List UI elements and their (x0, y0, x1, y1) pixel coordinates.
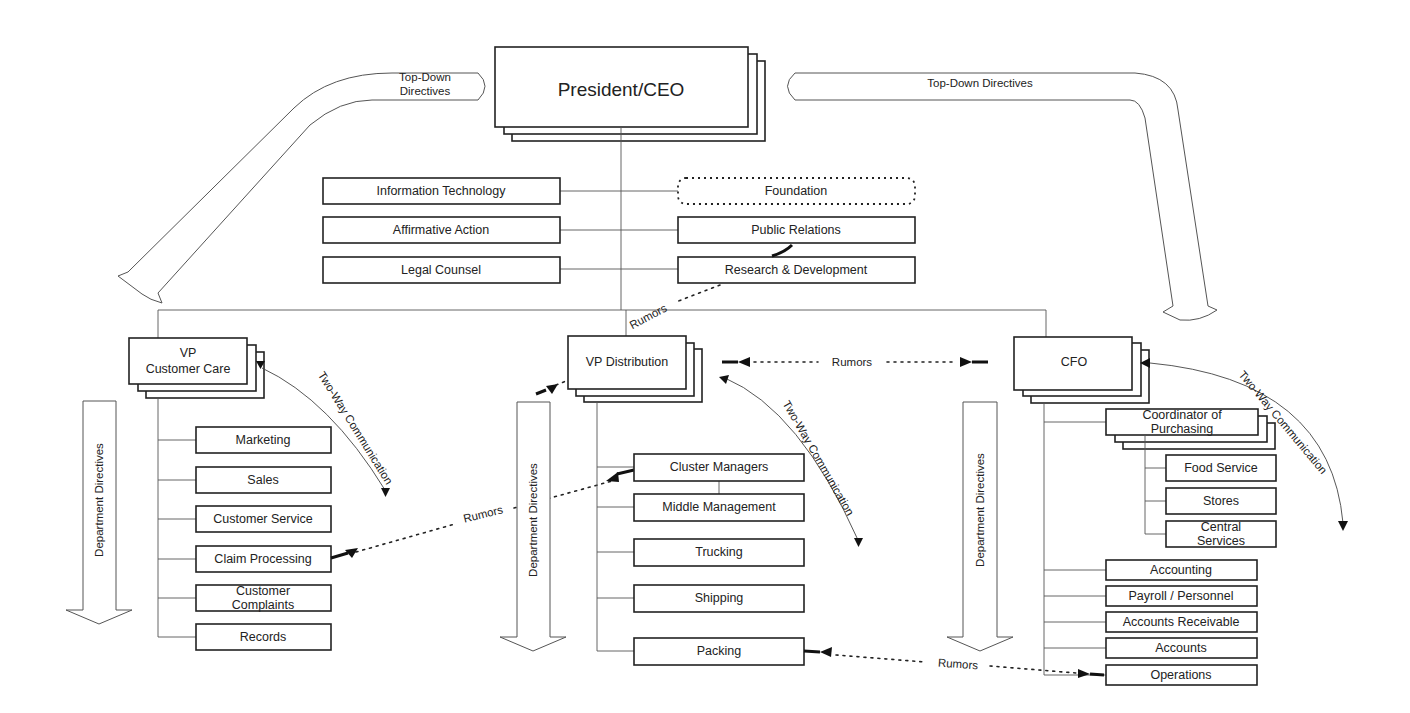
vp-customer-care-box[interactable]: VP Customer Care (129, 338, 264, 398)
dept-label: Payroll / Personnel (1129, 589, 1234, 603)
staff-research-development[interactable]: Research & Development (678, 257, 915, 283)
ceo-box[interactable]: President/CEO (495, 47, 765, 141)
staff-legal-counsel[interactable]: Legal Counsel (323, 257, 560, 283)
top-down-left-line2: Directives (400, 85, 451, 97)
dept-middle-management[interactable]: Middle Management (634, 494, 804, 521)
staff-label: Legal Counsel (401, 263, 481, 277)
rumor-rd-line (676, 285, 720, 302)
rumor-distribution-cfo: Rumors (722, 356, 988, 368)
rumor-label: Rumors (462, 503, 504, 524)
pr-rd-rumor-link (772, 245, 792, 256)
dept-accounting[interactable]: Accounting (1106, 560, 1257, 580)
dept-label-line2: Complaints (232, 598, 295, 612)
dept-label: Accounts Receivable (1123, 615, 1240, 629)
dept-accounts-receivable[interactable]: Accounts Receivable (1106, 612, 1257, 632)
dept-shipping[interactable]: Shipping (634, 585, 804, 612)
top-down-right-label: Top-Down Directives (927, 77, 1033, 89)
dept-customer-complaints[interactable]: Customer Complaints (196, 584, 331, 612)
dept-records[interactable]: Records (196, 624, 331, 650)
rumor-claim-cluster: Rumors (331, 470, 634, 558)
coordinator-label-line2: Purchasing (1151, 422, 1214, 436)
dept-label: Middle Management (662, 500, 776, 514)
dept-label-line1: Central (1201, 520, 1241, 534)
dept-label: Stores (1203, 494, 1239, 508)
staff-foundation[interactable]: Foundation (678, 178, 915, 204)
department-directives-label: Department Directives (93, 443, 105, 557)
cfo-box[interactable]: CFO (1014, 337, 1149, 403)
coordinator-departments: Food Service Stores Central Services (1145, 455, 1276, 548)
dept-label: Packing (697, 644, 742, 658)
department-directives-arrow-cfo: Department Directives (947, 402, 1013, 651)
dept-central-services[interactable]: Central Services (1166, 520, 1276, 548)
staff-public-relations[interactable]: Public Relations (678, 217, 915, 243)
dept-label: Trucking (695, 545, 743, 559)
vp-label: CFO (1061, 355, 1088, 369)
dept-label: Accounts (1155, 641, 1206, 655)
department-directives-arrow-distribution: Department Directives (500, 402, 566, 651)
dept-marketing[interactable]: Marketing (196, 427, 331, 453)
rumor-label: Rumors (832, 356, 873, 368)
rumor-rd-label: Rumors (628, 302, 669, 332)
dept-label: Customer Service (213, 512, 312, 526)
vp-distribution-box[interactable]: VP Distribution (568, 336, 702, 402)
rumor-stub (536, 390, 546, 394)
department-directives-arrow-customer-care: Department Directives (66, 401, 132, 624)
staff-label: Research & Development (725, 263, 868, 277)
vp-label-line1: VP (180, 346, 197, 360)
staff-label: Information Technology (376, 184, 506, 198)
dept-label: Records (240, 630, 287, 644)
vp-label: VP Distribution (586, 355, 668, 369)
staff-label: Affirmative Action (393, 223, 489, 237)
rumor-packing-operations: Rumors (804, 647, 1104, 678)
top-down-left-line1: Top-Down (399, 71, 451, 83)
dept-cluster-managers[interactable]: Cluster Managers (634, 454, 804, 481)
dept-label: Accounting (1150, 563, 1212, 577)
dept-label: Sales (247, 473, 278, 487)
staff-affirmative-action[interactable]: Affirmative Action (323, 217, 560, 243)
dept-label-line1: Customer (236, 584, 290, 598)
staff-information-technology[interactable]: Information Technology (323, 178, 560, 204)
cfo-departments: Accounting Payroll / Personnel Accounts … (1044, 560, 1257, 685)
dept-food-service[interactable]: Food Service (1166, 455, 1276, 481)
dept-label-line2: Services (1197, 534, 1245, 548)
dept-packing[interactable]: Packing (634, 638, 804, 665)
dept-label: Food Service (1184, 461, 1258, 475)
dept-trucking[interactable]: Trucking (634, 539, 804, 566)
dept-stores[interactable]: Stores (1166, 488, 1276, 514)
dept-label: Claim Processing (214, 552, 311, 566)
customer-care-departments: Marketing Sales Customer Service Claim P… (158, 427, 331, 650)
dept-label: Operations (1150, 668, 1211, 682)
coordinator-of-purchasing-box[interactable]: Coordinator of Purchasing (1106, 408, 1275, 449)
distribution-departments: Cluster Managers Middle Management Truck… (597, 454, 804, 665)
ceo-label: President/CEO (558, 79, 685, 100)
rumor-label: Rumors (937, 657, 978, 672)
dept-payroll-personnel[interactable]: Payroll / Personnel (1106, 586, 1257, 606)
dept-sales[interactable]: Sales (196, 467, 331, 493)
dept-claim-processing[interactable]: Claim Processing (196, 546, 331, 572)
dept-accounts[interactable]: Accounts (1106, 638, 1257, 658)
dept-label: Marketing (236, 433, 291, 447)
coordinator-label-line1: Coordinator of (1142, 408, 1222, 422)
department-directives-label: Department Directives (974, 453, 986, 567)
vp-label-line2: Customer Care (146, 362, 231, 376)
dept-label: Cluster Managers (670, 460, 769, 474)
org-chart-diagram: Top-Down Directives Top-Down Directives … (0, 0, 1410, 713)
dept-customer-service[interactable]: Customer Service (196, 506, 331, 532)
dept-label: Shipping (695, 591, 744, 605)
department-directives-label: Department Directives (527, 463, 539, 577)
staff-label: Public Relations (751, 223, 841, 237)
staff-label: Foundation (765, 184, 828, 198)
dept-operations[interactable]: Operations (1106, 665, 1257, 685)
